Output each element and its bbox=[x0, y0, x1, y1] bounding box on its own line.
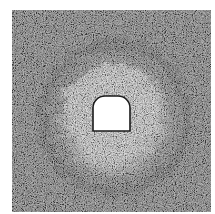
tunnel-damage-figure bbox=[0, 0, 215, 214]
tunnel-outline bbox=[93, 96, 130, 131]
